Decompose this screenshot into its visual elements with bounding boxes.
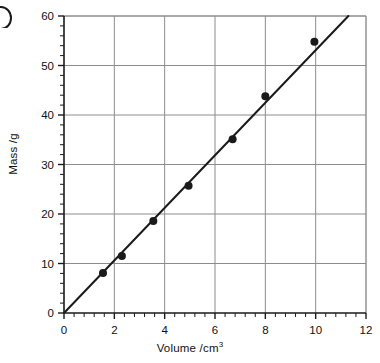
data-point [229,135,237,143]
y-tick-label: 30 [41,159,54,171]
y-tick-label: 10 [41,258,54,270]
x-axis-label: Volume /cm3 [0,342,380,354]
x-tick-label: 10 [309,324,322,336]
corner-letter-glyph [0,6,14,28]
x-tick-label: 0 [61,324,67,336]
y-tick-label: 20 [41,208,54,220]
x-tick-label: 8 [262,324,268,336]
x-tick-label: 4 [161,324,167,336]
data-point [118,252,126,260]
y-tick-label: 40 [41,109,54,121]
x-axis-label-text: Volume /cm [157,342,219,354]
graph-figure: 0102030405060 024681012 Volume /cm3 Mass… [0,0,380,363]
data-point [261,92,269,100]
gridlines-group [64,16,366,313]
x-axis-label-superscript: 3 [219,340,224,349]
data-point [99,269,107,277]
y-tick-label: 50 [41,60,54,72]
scatter-plot-canvas [0,0,380,363]
y-axis-label: Mass /g [7,119,19,189]
x-tick-label: 6 [212,324,218,336]
x-tick-label: 2 [111,324,117,336]
data-point [185,182,193,190]
data-point [310,38,318,46]
data-point [149,217,157,225]
x-tick-label: 12 [360,324,373,336]
y-tick-label: 60 [41,10,54,22]
y-tick-label: 0 [48,307,54,319]
